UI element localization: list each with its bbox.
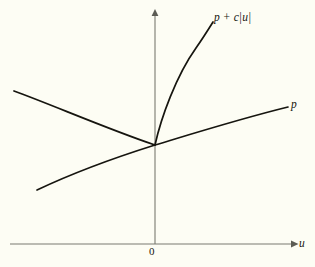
x-axis-arrowhead bbox=[291, 240, 299, 247]
curve-label-p: p bbox=[291, 99, 297, 111]
origin-label: 0 bbox=[149, 246, 155, 257]
plot-canvas bbox=[0, 0, 315, 267]
x-axis-label: u bbox=[299, 238, 305, 250]
y-axis-arrowhead bbox=[152, 9, 159, 16]
curve-p-plus-c-abs-u bbox=[155, 22, 213, 145]
curve-p-left-branch bbox=[14, 91, 155, 145]
curve-label-p-plus-c-abs-u: p + c|u| bbox=[214, 12, 251, 24]
figure-container: p + c|u| p u 0 bbox=[0, 0, 315, 267]
